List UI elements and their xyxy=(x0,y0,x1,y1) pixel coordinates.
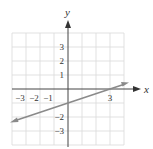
y-tick-label: −3 xyxy=(54,126,64,136)
x-tick-labels: −3 −2 −1 3 xyxy=(15,93,113,103)
x-tick-label: −2 xyxy=(29,93,39,103)
line-arrow-left-icon xyxy=(10,118,19,123)
y-axis-label: y xyxy=(64,6,70,18)
y-tick-label: 3 xyxy=(60,42,65,52)
y-tick-label: −2 xyxy=(54,112,64,122)
x-axis-arrow-icon xyxy=(133,86,141,92)
y-axis: y xyxy=(64,6,71,147)
y-tick-label: 2 xyxy=(60,56,65,66)
x-tick-label: −3 xyxy=(15,93,25,103)
line-arrow-right-icon xyxy=(121,82,129,87)
y-axis-arrow-icon xyxy=(65,20,71,28)
x-tick-label: 3 xyxy=(108,93,113,103)
x-tick-label: −1 xyxy=(43,93,53,103)
x-axis-label: x xyxy=(143,83,149,95)
y-tick-label: 1 xyxy=(60,70,65,80)
coordinate-plane: x y −3 −2 −1 3 3 2 1 −2 −3 xyxy=(0,0,153,149)
